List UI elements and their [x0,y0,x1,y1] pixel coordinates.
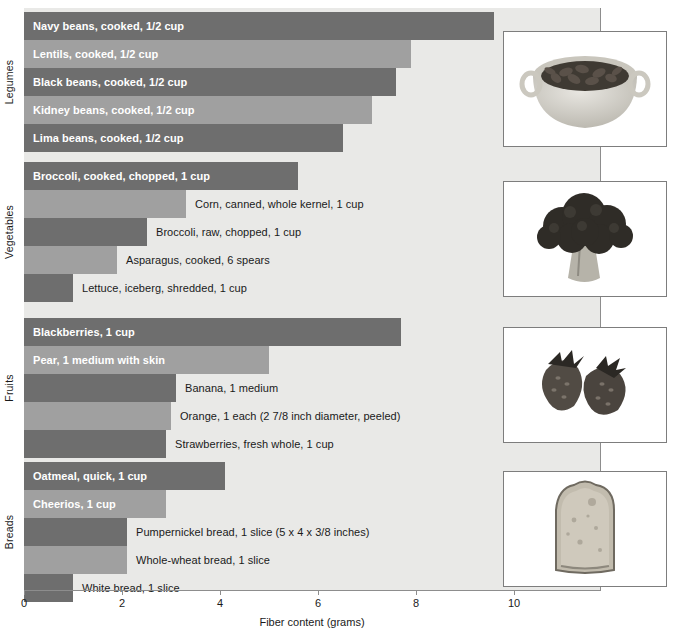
x-axis-tick [514,590,515,595]
bar [24,402,171,430]
x-axis-tick-label: 2 [119,597,125,609]
x-axis-tick-label: 6 [315,597,321,609]
bar-label: Strawberries, fresh whole, 1 cup [166,430,334,458]
x-axis-tick-label: 4 [217,597,223,609]
bar-label: Lima beans, cooked, 1/2 cup [24,124,184,152]
bar [24,374,176,402]
bar-label: Broccoli, raw, chopped, 1 cup [147,218,301,246]
bar [24,574,73,602]
bar-label: White bread, 1 slice [73,574,180,602]
bar-fill [24,246,117,274]
bar-label: Pumpernickel bread, 1 slice (5 x 4 x 3/8… [127,518,370,546]
bar-fill [24,546,127,574]
bar-label: Navy beans, cooked, 1/2 cup [24,12,184,40]
x-axis-tick [318,590,319,595]
bar [24,518,127,546]
bar-label: Asparagus, cooked, 6 spears [117,246,270,274]
bar [24,246,117,274]
bar-label: Broccoli, cooked, chopped, 1 cup [24,162,210,190]
x-axis-tick [24,590,25,595]
group-label-text: Vegetables [3,205,15,259]
bowl-of-beans-photo [503,31,667,147]
x-axis-tick-label: 0 [21,597,27,609]
strawberries-photo [503,327,667,443]
bar-label: Oatmeal, quick, 1 cup [24,462,147,490]
group-label-text: Breads [3,515,15,549]
x-axis-tick-label: 10 [508,597,520,609]
bar-fill [24,374,176,402]
bar-fill [24,574,73,602]
bar [24,546,127,574]
bar-label: Whole-wheat bread, 1 slice [127,546,270,574]
broccoli-photo [503,181,667,297]
x-axis-tick [122,590,123,595]
bar [24,218,147,246]
x-axis-tick-label: 8 [413,597,419,609]
bar-fill [24,402,171,430]
group-label-breads: Breads [0,462,18,602]
bar-label: Lentils, cooked, 1/2 cup [24,40,158,68]
bread-slice-photo [503,471,667,587]
bar-label: Banana, 1 medium [176,374,278,402]
bar [24,430,166,458]
bar-fill [24,218,147,246]
group-label-legumes: Legumes [0,12,18,152]
group-label-text: Legumes [3,60,15,105]
bar-label: Blackberries, 1 cup [24,318,135,346]
bread-slice-photo-image [504,472,666,586]
bar [24,274,73,302]
bar-label: Corn, canned, whole kernel, 1 cup [186,190,364,218]
group-label-text: Fruits [3,374,15,401]
bar-label: Black beans, cooked, 1/2 cup [24,68,187,96]
bar-label: Cheerios, 1 cup [24,490,116,518]
bar-fill [24,274,73,302]
broccoli-photo-image [504,182,666,296]
bar-fill [24,430,166,458]
bar [24,190,186,218]
group-label-vegetables: Vegetables [0,162,18,302]
x-axis-tick [416,590,417,595]
x-axis-tick [220,590,221,595]
fiber-content-bar-chart: LegumesNavy beans, cooked, 1/2 cupLentil… [0,0,675,636]
group-label-fruits: Fruits [0,318,18,458]
bar-fill [24,518,127,546]
bar-label: Pear, 1 medium with skin [24,346,165,374]
bar-label: Lettuce, iceberg, shredded, 1 cup [73,274,247,302]
strawberries-photo-image [504,328,666,442]
bar-fill [24,190,186,218]
bar-label: Orange, 1 each (2 7/8 inch diameter, pee… [171,402,401,430]
bowl-of-beans-photo-image [504,32,666,146]
x-axis-title: Fiber content (grams) [0,616,624,628]
bar-label: Kidney beans, cooked, 1/2 cup [24,96,195,124]
